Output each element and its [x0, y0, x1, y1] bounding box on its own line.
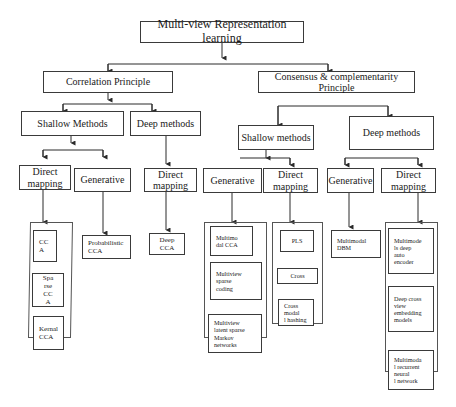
- correlation-shallow-direct-mapping-node: Direct mapping: [19, 165, 71, 190]
- consensus-deep-direct-mapping-label: Direct mapping: [391, 169, 426, 192]
- leaf-pls: PLS: [280, 230, 314, 252]
- leaf-cross-modal-hashing: Cross modal l hashing: [278, 299, 314, 326]
- consensus-deep-generative-label: Generative: [329, 175, 373, 187]
- correlation-deep-label: Deep methods: [137, 118, 195, 130]
- leaf-cca-label: CC A: [39, 238, 48, 254]
- correlation-shallow-direct-mapping-label: Direct mapping: [28, 166, 63, 189]
- correlation-deep-direct-mapping-node: Direct mapping: [144, 168, 197, 192]
- leaf-multimodal-dbm: Multimodal DBM: [331, 230, 381, 258]
- correlation-shallow-label: Shallow Methods: [37, 118, 107, 130]
- leaf-sparse-cca: Spa rse CC A: [32, 273, 64, 307]
- correlation-deep-node: Deep methods: [130, 111, 201, 136]
- correlation-shallow-generative-node: Generative: [74, 168, 131, 192]
- leaf-multimodal-cca-label: Multimo dal CCA: [216, 234, 238, 248]
- consensus-principle-label: Consensus & complementarity Principle: [259, 71, 414, 94]
- leaf-multimodal-recurrent-network-label: Multimoda l recurrent neural l network: [394, 356, 422, 385]
- correlation-shallow-generative-label: Generative: [81, 174, 125, 186]
- leaf-deep-cca-label: Deep CCA: [160, 236, 175, 252]
- consensus-shallow-node: Shallow methods: [238, 125, 314, 150]
- consensus-principle-node: Consensus & complementarity Principle: [258, 71, 415, 93]
- leaf-multiview-sparse-coding-label: Multiview sparse coding: [216, 270, 242, 291]
- leaf-deep-cca: Deep CCA: [149, 233, 185, 255]
- correlation-deep-direct-mapping-label: Direct mapping: [153, 169, 188, 192]
- leaf-deep-cross-view-embedding-label: Deep cross view embedding models: [394, 295, 422, 324]
- leaf-multimodal-cca: Multimo dal CCA: [210, 226, 253, 256]
- leaf-multimodels-deep-autoencoder-label: Multimode ls deep auto encoder: [394, 237, 422, 266]
- leaf-kernal-cca: Kernal CCA: [33, 316, 64, 350]
- leaf-probabilistic-cca-label: Probabilistic CCA: [88, 239, 123, 255]
- leaf-multiview-latent-sparse-markov-label: Multiview latent sparse Markov networks: [214, 319, 245, 348]
- correlation-shallow-node: Shallow Methods: [21, 111, 124, 136]
- leaf-sparse-cca-label: Spa rse CC A: [43, 274, 54, 306]
- leaf-cross-modal-hashing-label: Cross modal l hashing: [284, 302, 307, 323]
- root-label: Multi-view Representation learning: [141, 18, 303, 46]
- leaf-pls-label: PLS: [292, 237, 303, 244]
- leaf-multiview-sparse-coding: Multiview sparse coding: [210, 262, 262, 300]
- leaf-cross: Cross: [277, 268, 318, 284]
- leaf-cca: CC A: [33, 230, 57, 262]
- leaf-deep-cross-view-embedding: Deep cross view embedding models: [388, 286, 434, 332]
- leaf-multiview-latent-sparse-markov: Multiview latent sparse Markov networks: [208, 314, 262, 353]
- leaf-multimodels-deep-autoencoder: Multimode ls deep auto encoder: [388, 228, 434, 274]
- leaf-probabilistic-cca: Probabilistic CCA: [82, 235, 131, 259]
- correlation-principle-node: Correlation Principle: [43, 71, 173, 93]
- leaf-multimodal-dbm-label: Multimodal DBM: [337, 237, 366, 251]
- consensus-shallow-label: Shallow methods: [241, 132, 310, 144]
- leaf-multimodal-recurrent-network: Multimoda l recurrent neural l network: [388, 350, 434, 390]
- consensus-deep-generative-node: Generative: [327, 168, 374, 193]
- consensus-shallow-direct-mapping-label: Direct mapping: [273, 169, 308, 192]
- consensus-deep-direct-mapping-node: Direct mapping: [381, 168, 436, 193]
- consensus-deep-label: Deep methods: [363, 127, 421, 139]
- correlation-principle-label: Correlation Principle: [66, 76, 150, 88]
- consensus-shallow-generative-node: Generative: [203, 168, 262, 193]
- root-node: Multi-view Representation learning: [140, 21, 304, 43]
- leaf-kernal-cca-label: Kernal CCA: [39, 325, 58, 341]
- consensus-shallow-generative-label: Generative: [211, 175, 255, 187]
- leaf-cross-label: Cross: [290, 272, 304, 279]
- consensus-shallow-direct-mapping-node: Direct mapping: [263, 168, 318, 193]
- consensus-deep-node: Deep methods: [349, 116, 434, 150]
